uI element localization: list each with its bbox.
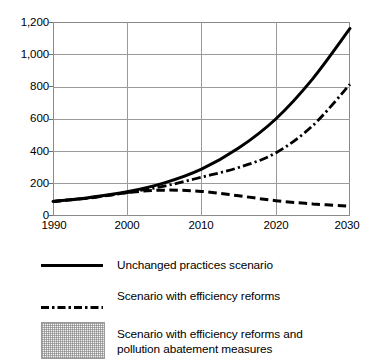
solid-line-key (41, 264, 103, 267)
legend-label-reforms-and-abatement: Scenario with efficiency reforms and pol… (117, 327, 369, 356)
y-tick-label-400: 400 (3, 145, 49, 157)
legend-label-efficiency-reforms: Scenario with efficiency reforms (117, 289, 369, 304)
dash-dot-line-glyph (41, 306, 103, 309)
y-tick-label-1000: 1,000 (3, 48, 49, 60)
x-tick-label-2030: 2030 (317, 219, 375, 232)
chart-figure: 1,200 1,000 800 600 400 200 0 (0, 0, 375, 364)
series-line-efficiency-reforms (53, 84, 350, 201)
x-tick-label-1990: 1990 (24, 219, 84, 232)
series-curves (53, 22, 350, 216)
x-tick-label-2000: 2000 (97, 219, 157, 232)
plot-area (53, 22, 350, 216)
y-tick-label-600: 600 (3, 112, 49, 124)
x-tick-label-2010: 2010 (171, 219, 231, 232)
x-axis: 1990 2000 2010 2020 2030 (0, 219, 375, 235)
series-line-unchanged-practices (53, 28, 350, 201)
x-tick-label-2020: 2020 (246, 219, 306, 232)
series-line-reforms-and-abatement (53, 190, 350, 206)
stipple-swatch-key (41, 322, 105, 359)
dash-dot-line-key (41, 295, 103, 298)
y-tick-label-1200: 1,200 (3, 16, 49, 28)
legend-label-unchanged-practices: Unchanged practices scenario (117, 258, 369, 273)
y-tick-label-200: 200 (3, 177, 49, 189)
legend-label-line-2: pollution abatement measures (117, 342, 369, 357)
legend-label-line-1: Scenario with efficiency reforms and (117, 327, 369, 342)
y-tick-label-800: 800 (3, 80, 49, 92)
y-axis: 1,200 1,000 800 600 400 200 0 (0, 0, 49, 364)
